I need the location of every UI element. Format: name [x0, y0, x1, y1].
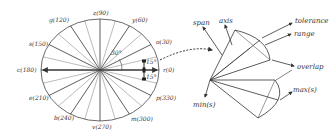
connector-arrow	[160, 49, 212, 60]
label-max: max(s)	[293, 86, 317, 94]
direction-label-y: y(60)	[131, 16, 148, 24]
cone-diagram	[203, 23, 294, 118]
direction-label-z: z(90)	[92, 9, 109, 16]
direction-label-m: m(300)	[131, 115, 153, 122]
direction-circle: 30° 15° 15° r(0) o(30) y(60) z(90) g(120…	[17, 9, 177, 130]
direction-label-e: e(210)	[29, 94, 49, 101]
direction-label-g: g(120)	[49, 16, 70, 24]
direction-label-s: s(150)	[29, 40, 49, 47]
angle-arc-30	[120, 60, 123, 71]
angle-label-30: 30°	[111, 49, 122, 56]
direction-label-b: b(240)	[54, 114, 75, 121]
direction-label-v: v(270)	[92, 123, 112, 130]
angle-label-15-lower: 15°	[146, 73, 157, 80]
label-range: range	[294, 30, 315, 38]
label-min: min(s)	[193, 101, 216, 109]
direction-label-o: o(30)	[156, 38, 173, 45]
direction-label-r: r(0)	[163, 66, 175, 73]
label-span: span	[193, 19, 210, 27]
direction-label-c: c(180)	[17, 66, 37, 73]
direction-label-p: p(330)	[156, 94, 177, 102]
label-overlap: overlap	[297, 63, 324, 71]
angle-label-15-upper: 15°	[146, 58, 157, 65]
diagram-canvas: 30° 15° 15° r(0) o(30) y(60) z(90) g(120…	[0, 0, 336, 136]
label-tolerance: tolerance	[295, 17, 329, 25]
label-axis: axis	[219, 17, 233, 25]
